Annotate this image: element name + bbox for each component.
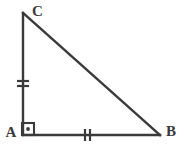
vertex-label-a: A: [6, 124, 17, 140]
triangle-diagram: C A B: [0, 0, 182, 150]
right-angle-dot-icon: [26, 127, 30, 131]
vertex-label-b: B: [166, 123, 176, 139]
side-cb-hypotenuse-line: [23, 13, 160, 135]
geometry-figure-canvas: C A B: [0, 0, 182, 150]
vertex-label-c: C: [32, 3, 43, 19]
